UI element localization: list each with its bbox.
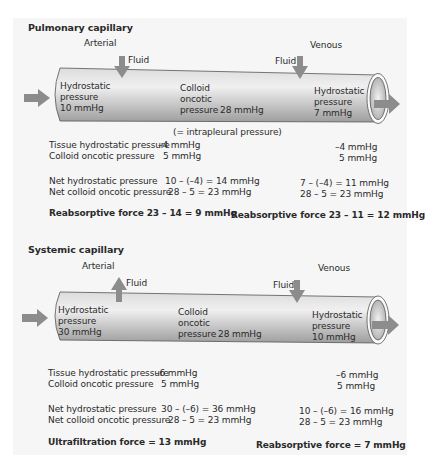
colloid-oncotic-label: oncotic bbox=[180, 94, 212, 105]
venous-colloid-oncotic-value: 5 mmHg bbox=[339, 153, 377, 164]
net-colloid-oncotic-label: Net colloid oncotic pressure bbox=[49, 187, 171, 198]
venous-hydrostatic-label: Hydrostatic bbox=[312, 310, 362, 321]
pulmonary-title: Pulmonary capillary bbox=[28, 22, 133, 33]
arterial-hydrostatic-label: Hydrostatic bbox=[60, 81, 110, 92]
arterial-reabsorptive-force: Reabsorptive force 23 – 14 = 9 mmHg bbox=[49, 208, 237, 219]
colloid-oncotic-label: oncotic bbox=[178, 318, 210, 329]
colloid-oncotic-label: pressure bbox=[180, 105, 218, 116]
arterial-hydrostatic-label: Hydrostatic bbox=[58, 305, 108, 316]
tissue-hydrostatic-label: Tissue hydrostatic pressure bbox=[49, 140, 170, 151]
arterial-label: Arterial bbox=[84, 38, 116, 49]
colloid-oncotic-label: Colloid oncotic pressure bbox=[48, 379, 153, 390]
colloid-oncotic-label: Colloid bbox=[180, 83, 210, 94]
colloid-oncotic-label: Colloid bbox=[178, 307, 208, 318]
arterial-tissue-hydrostatic-value: –4 mmHg bbox=[158, 140, 200, 151]
arterial-net-colloid-value: 28 – 5 = 23 mmHg bbox=[168, 187, 251, 198]
venous-tissue-hydrostatic-value: –6 mmHg bbox=[336, 370, 378, 381]
venous-net-hydrostatic-value: 10 – (–6) = 16 mmHg bbox=[299, 406, 394, 417]
venous-net-hydrostatic-value: 7 – (–4) = 11 mmHg bbox=[300, 178, 389, 189]
venous-net-colloid-value: 28 – 5 = 23 mmHg bbox=[300, 189, 383, 200]
arterial-colloid-oncotic-value: 5 mmHg bbox=[163, 151, 201, 162]
net-hydrostatic-label: Net hydrostatic pressure bbox=[48, 404, 156, 415]
venous-net-colloid-value: 28 – 5 = 23 mmHg bbox=[299, 417, 382, 428]
arterial-hydrostatic-value: 10 mmHg bbox=[60, 103, 104, 114]
fluid-label: Fluid bbox=[273, 280, 294, 291]
venous-hydrostatic-label: pressure bbox=[312, 321, 350, 332]
arterial-hydrostatic-label: pressure bbox=[58, 316, 96, 327]
arterial-net-hydrostatic-value: 10 – (–4) = 14 mmHg bbox=[165, 176, 260, 187]
fluid-label: Fluid bbox=[128, 55, 149, 66]
arterial-hydrostatic-label: pressure bbox=[60, 92, 98, 103]
colloid-oncotic-label: Colloid oncotic pressure bbox=[49, 151, 154, 162]
venous-hydrostatic-value: 7 mmHg bbox=[314, 108, 352, 119]
net-hydrostatic-label: Net hydrostatic pressure bbox=[49, 176, 157, 187]
venous-hydrostatic-value: 10 mmHg bbox=[312, 332, 356, 343]
ultrafiltration-force: Ultrafiltration force = 13 mmHg bbox=[48, 437, 206, 448]
systemic-title: Systemic capillary bbox=[28, 244, 124, 255]
inflow-arrow-icon bbox=[24, 89, 50, 107]
venous-hydrostatic-label: Hydrostatic bbox=[314, 86, 364, 97]
colloid-oncotic-value: 28 mmHg bbox=[218, 329, 262, 340]
arterial-net-colloid-value: 28 – 5 = 23 mmHg bbox=[168, 415, 251, 426]
venous-reabsorptive-force: Reabsorptive force = 7 mmHg bbox=[256, 440, 406, 451]
venous-hydrostatic-label: pressure bbox=[314, 97, 352, 108]
venous-label: Venous bbox=[318, 263, 350, 274]
venous-colloid-oncotic-value: 5 mmHg bbox=[337, 381, 375, 392]
tissue-hydrostatic-label: Tissue hydrostatic pressure bbox=[48, 368, 169, 379]
arterial-net-hydrostatic-value: 30 – (–6) = 36 mmHg bbox=[161, 404, 256, 415]
net-colloid-oncotic-label: Net colloid oncotic pressure bbox=[48, 415, 170, 426]
arterial-colloid-oncotic-value: 5 mmHg bbox=[161, 379, 199, 390]
intrapleural-note: (= intrapleural pressure) bbox=[173, 127, 282, 138]
arterial-label: Arterial bbox=[82, 261, 114, 272]
fluid-label: Fluid bbox=[126, 278, 147, 289]
fluid-label: Fluid bbox=[275, 56, 296, 67]
venous-label: Venous bbox=[310, 40, 342, 51]
arterial-hydrostatic-value: 30 mmHg bbox=[58, 327, 102, 338]
venous-tissue-hydrostatic-value: –4 mmHg bbox=[335, 142, 377, 153]
venous-reabsorptive-force: Reabsorptive force 23 – 11 = 12 mmHg bbox=[231, 210, 425, 221]
colloid-oncotic-value: 28 mmHg bbox=[220, 105, 264, 116]
arterial-tissue-hydrostatic-value: –6 mmHg bbox=[155, 368, 197, 379]
inflow-arrow-icon bbox=[22, 309, 48, 327]
colloid-oncotic-label: pressure bbox=[178, 329, 216, 340]
